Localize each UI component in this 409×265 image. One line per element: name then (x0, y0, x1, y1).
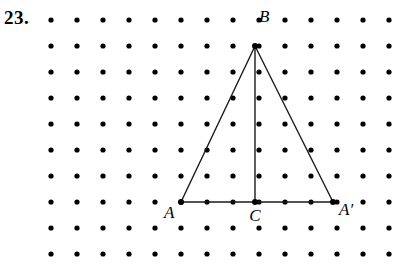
lattice-dot (74, 251, 79, 256)
lattice-dot (48, 17, 53, 22)
lattice-dot (360, 17, 365, 22)
lattice-dot (152, 69, 157, 74)
lattice-dot (386, 121, 391, 126)
lattice-dot (100, 173, 105, 178)
lattice-dot (152, 199, 157, 204)
lattice-dot (74, 95, 79, 100)
lattice-dot (230, 121, 235, 126)
lattice-dot (100, 251, 105, 256)
lattice-dot (100, 147, 105, 152)
vertex-labels: ABCA′ (163, 7, 353, 225)
lattice-dot (334, 69, 339, 74)
lattice-dot (204, 69, 209, 74)
lattice-dot (256, 95, 261, 100)
lattice-dot (178, 147, 183, 152)
lattice-dot (360, 251, 365, 256)
vertex-label-A: A (163, 203, 175, 222)
lattice-dot (100, 225, 105, 230)
vertex-dot-Aprime (330, 199, 336, 205)
lattice-dot (256, 225, 261, 230)
lattice-dot (178, 251, 183, 256)
vertex-dot-B (252, 43, 258, 49)
figure-page: 23. ABCA′ (0, 0, 409, 265)
lattice-dot (204, 173, 209, 178)
lattice-dot (386, 69, 391, 74)
lattice-dot (204, 43, 209, 48)
lattice-dot (360, 173, 365, 178)
lattice-dot (48, 95, 53, 100)
lattice-dot (256, 69, 261, 74)
lattice-dot (74, 43, 79, 48)
lattice-dot (152, 147, 157, 152)
lattice-dot (360, 147, 365, 152)
lattice-dot (230, 173, 235, 178)
lattice-dot (386, 225, 391, 230)
lattice-dot (360, 43, 365, 48)
lattice-dot (48, 251, 53, 256)
lattice-dot (100, 95, 105, 100)
lattice-dot (126, 95, 131, 100)
lattice-dot (126, 147, 131, 152)
lattice-dot (360, 225, 365, 230)
lattice-dot (204, 17, 209, 22)
lattice-dot (230, 225, 235, 230)
lattice-dot (230, 69, 235, 74)
lattice-dot (74, 173, 79, 178)
lattice-dot (360, 199, 365, 204)
lattice-dot (282, 69, 287, 74)
lattice-dot (74, 121, 79, 126)
lattice-dot (126, 199, 131, 204)
lattice-dot (386, 17, 391, 22)
lattice-dot (334, 251, 339, 256)
lattice-dot (48, 147, 53, 152)
lattice-dot (126, 69, 131, 74)
lattice-dot (282, 147, 287, 152)
lattice-dot (308, 147, 313, 152)
lattice-dot (308, 17, 313, 22)
lattice-dot (48, 225, 53, 230)
lattice-dot (334, 147, 339, 152)
side-BAprime (255, 46, 333, 202)
vertex-label-C: C (249, 206, 261, 225)
lattice-dot (178, 43, 183, 48)
lattice-dot (178, 121, 183, 126)
lattice-dot (152, 43, 157, 48)
geometry-figure: ABCA′ (0, 0, 409, 265)
lattice-dot (48, 173, 53, 178)
lattice-dot (360, 121, 365, 126)
lattice-dot (230, 43, 235, 48)
lattice-dot (308, 69, 313, 74)
lattice-dot (308, 173, 313, 178)
lattice-dot (204, 225, 209, 230)
lattice-dot (178, 225, 183, 230)
side-AB (181, 46, 255, 202)
lattice-dot (74, 147, 79, 152)
lattice-dot (386, 251, 391, 256)
lattice-dot (100, 17, 105, 22)
lattice-dot (308, 121, 313, 126)
lattice-dot (334, 173, 339, 178)
lattice-dot (386, 173, 391, 178)
lattice-dot (152, 173, 157, 178)
lattice-dot (152, 121, 157, 126)
lattice-dot (334, 17, 339, 22)
lattice-dot (48, 121, 53, 126)
lattice-dot (178, 95, 183, 100)
lattice-dot (282, 121, 287, 126)
lattice-dot (230, 17, 235, 22)
lattice-dot (48, 199, 53, 204)
lattice-dot (230, 147, 235, 152)
lattice-dot (100, 121, 105, 126)
lattice-dot (152, 251, 157, 256)
vertex-dot-C (252, 199, 258, 205)
vertex-label-B: B (259, 7, 270, 26)
lattice-dot (308, 225, 313, 230)
lattice-dot (230, 251, 235, 256)
lattice-dot (308, 95, 313, 100)
lattice-dot (282, 43, 287, 48)
lattice-dot (126, 121, 131, 126)
lattice-dot (282, 17, 287, 22)
vertex-dot-A (178, 199, 184, 205)
lattice-dot (74, 69, 79, 74)
lattice-dot (178, 17, 183, 22)
